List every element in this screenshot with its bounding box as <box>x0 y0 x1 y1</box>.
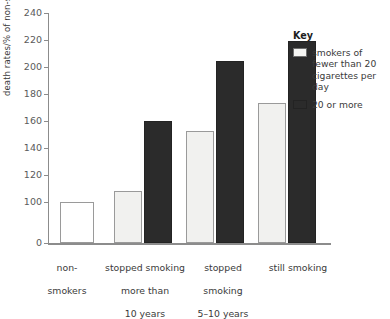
y-axis-label: death rates/% of non-smokers <box>2 0 12 96</box>
bar-non-smokers-light <box>60 202 94 243</box>
category-label-non-smokers: non- smokers <box>38 250 96 296</box>
bar-stopped-over-10-light <box>114 191 142 243</box>
y-tick-120: 120 <box>24 170 42 180</box>
category-line-2: more than <box>121 285 169 296</box>
bar-stopped-over-10-dark <box>144 121 172 243</box>
category-label-stopped-5-10: stopped smoking 5–10 years <box>188 250 258 319</box>
category-line-2: smoking <box>203 285 242 296</box>
y-tick-100: 100 <box>24 197 42 207</box>
bar-stopped-5-10-light <box>186 131 214 243</box>
legend-swatch-dark-icon <box>293 100 307 109</box>
legend-label-dark: 20 or more <box>312 99 363 110</box>
y-tick-220: 220 <box>24 35 42 45</box>
category-line-2: smokers <box>47 285 86 296</box>
bar-stopped-5-10-dark <box>216 61 244 243</box>
legend-title: Key <box>293 30 390 41</box>
bar-still-smoking-light <box>258 103 286 243</box>
y-tick-160: 160 <box>24 116 42 126</box>
legend-swatch-light-icon <box>293 48 307 57</box>
legend-label-light: smokers of fewer than 20 cigarettes per … <box>312 47 390 92</box>
category-line-1: still smoking <box>269 262 328 273</box>
y-tick-180: 180 <box>24 89 42 99</box>
legend-item-dark: 20 or more <box>293 99 390 110</box>
y-tick-140: 140 <box>24 143 42 153</box>
category-line-3: 5–10 years <box>198 308 249 319</box>
y-axis-ticks: 240 220 200 180 160 140 120 100 0 <box>12 0 42 288</box>
y-tick-240: 240 <box>24 8 42 18</box>
category-line-3: 10 years <box>125 308 165 319</box>
category-line-1: stopped <box>204 262 242 273</box>
category-label-stopped-over-10: stopped smoking more than 10 years <box>100 250 190 319</box>
legend: Key smokers of fewer than 20 cigarettes … <box>293 30 390 117</box>
legend-item-light: smokers of fewer than 20 cigarettes per … <box>293 47 390 92</box>
y-tick-0: 0 <box>36 238 42 248</box>
category-line-1: stopped smoking <box>105 262 185 273</box>
y-tick-200: 200 <box>24 62 42 72</box>
category-line-1: non- <box>57 262 78 273</box>
category-label-still-smoking: still smoking <box>258 250 338 273</box>
